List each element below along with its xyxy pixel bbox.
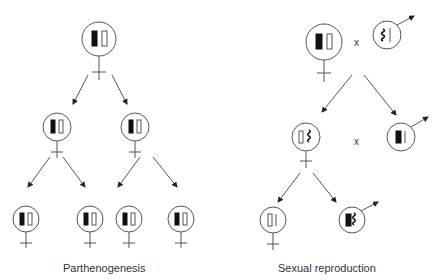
female-child-1	[43, 113, 71, 158]
female-child-2	[121, 113, 149, 158]
male-parent	[373, 16, 414, 49]
caption-sexual-reproduction: Sexual reproduction	[278, 262, 376, 274]
cross-symbol-2: x	[354, 136, 359, 147]
female-offspring-gen1	[292, 123, 320, 168]
male-offspring-gen2	[339, 202, 378, 233]
female-grandchild-3	[116, 206, 142, 248]
female-grandchild-1	[13, 206, 39, 248]
female-parent	[82, 22, 116, 80]
female-parent-sexual	[306, 24, 342, 82]
caption-parthenogenesis: Parthenogenesis	[63, 262, 146, 274]
cross-symbol-1: x	[354, 37, 359, 48]
arrow	[73, 75, 88, 104]
reproduction-diagram	[0, 0, 443, 280]
female-offspring-gen2	[260, 207, 286, 250]
female-grandchild-2	[77, 206, 103, 248]
female-grandchild-4	[168, 206, 194, 248]
male-offspring-gen1	[387, 117, 428, 151]
